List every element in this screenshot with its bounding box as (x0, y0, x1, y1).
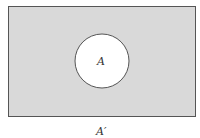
complement-caption: A′ (96, 126, 106, 137)
set-a-label: A (97, 56, 105, 67)
venn-diagram (0, 0, 200, 138)
